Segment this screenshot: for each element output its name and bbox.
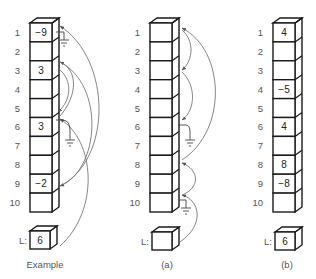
row-label: 6 xyxy=(258,121,263,132)
memory-cell-1 xyxy=(150,23,172,42)
row-label: 2 xyxy=(135,46,140,57)
memory-cell-6 xyxy=(150,118,172,137)
memory-cell-7 xyxy=(150,136,172,155)
row-label: 5 xyxy=(135,103,140,114)
cell-value: −9 xyxy=(35,27,47,38)
linked-list-diagram: 1−92334563789−210L:6Example 12345678910L… xyxy=(0,0,316,279)
panel-b: 14234−55647889−810L:6(b) xyxy=(252,18,302,270)
panel-caption: Example xyxy=(27,259,64,270)
row-label: 1 xyxy=(258,27,263,38)
row-label: 4 xyxy=(258,84,263,95)
memory-cell-4 xyxy=(30,80,52,99)
memory-cell-2 xyxy=(273,42,295,61)
memory-cell-9 xyxy=(150,174,172,193)
row-label: 1 xyxy=(135,27,140,38)
list-head-label: L: xyxy=(141,236,149,247)
panel-a: 12345678910L:(a) xyxy=(129,18,179,270)
memory-cell-3 xyxy=(150,61,172,80)
row-label: 8 xyxy=(135,159,140,170)
memory-cell-10 xyxy=(150,193,172,212)
panel-example: 1−92334563789−210L:6Example xyxy=(9,18,63,270)
memory-cell-2 xyxy=(150,42,172,61)
memory-cell-5 xyxy=(30,99,52,118)
memory-cell-7 xyxy=(30,136,52,155)
row-label: 3 xyxy=(135,65,140,76)
memory-cell-7 xyxy=(273,136,295,155)
list-head-value: 6 xyxy=(282,236,288,247)
row-label: 3 xyxy=(258,65,263,76)
row-label: 7 xyxy=(15,140,20,151)
list-head-value: 6 xyxy=(37,235,43,246)
cell-value: 4 xyxy=(281,27,287,38)
memory-cell-2 xyxy=(30,42,52,61)
memory-cell-3 xyxy=(273,61,295,80)
pointer-arcs-a xyxy=(180,28,215,242)
cell-value: −5 xyxy=(278,84,290,95)
row-label: 5 xyxy=(15,103,20,114)
row-label: 9 xyxy=(15,178,20,189)
row-label: 9 xyxy=(258,178,263,189)
memory-cell-8 xyxy=(30,155,52,174)
row-label: 5 xyxy=(258,103,263,114)
panel-caption: (a) xyxy=(161,259,173,270)
memory-cell-5 xyxy=(273,99,295,118)
cell-value: −2 xyxy=(35,178,47,189)
list-head-label: L: xyxy=(19,235,27,246)
cell-value: 3 xyxy=(38,121,44,132)
row-label: 8 xyxy=(258,159,263,170)
cell-value: 3 xyxy=(38,65,44,76)
pointer-arcs-example xyxy=(58,26,99,246)
memory-cell-10 xyxy=(273,193,295,212)
row-label: 3 xyxy=(15,65,20,76)
memory-cell-4 xyxy=(150,80,172,99)
row-label: 4 xyxy=(15,84,20,95)
row-label: 1 xyxy=(15,27,20,38)
row-label: 4 xyxy=(135,84,140,95)
panel-caption: (b) xyxy=(281,259,293,270)
row-label: 8 xyxy=(15,159,20,170)
memory-cell-8 xyxy=(150,155,172,174)
cell-value: 4 xyxy=(281,121,287,132)
cell-value: −8 xyxy=(278,178,290,189)
row-label: 7 xyxy=(258,140,263,151)
row-label: 6 xyxy=(135,121,140,132)
list-head-register xyxy=(152,232,172,250)
list-head-label: L: xyxy=(264,236,272,247)
memory-cell-10 xyxy=(30,193,52,212)
row-label: 2 xyxy=(15,46,20,57)
row-label: 6 xyxy=(15,121,20,132)
row-label: 7 xyxy=(135,140,140,151)
row-label: 10 xyxy=(252,197,263,208)
row-label: 2 xyxy=(258,46,263,57)
cell-value: 8 xyxy=(281,159,287,170)
row-label: 10 xyxy=(9,197,20,208)
memory-cell-5 xyxy=(150,99,172,118)
row-label: 10 xyxy=(129,197,140,208)
row-label: 9 xyxy=(135,178,140,189)
